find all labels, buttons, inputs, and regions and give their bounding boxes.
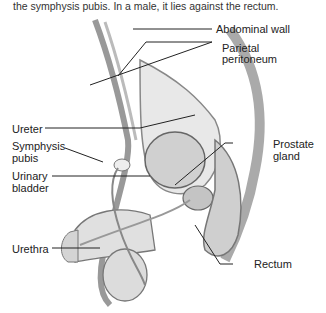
- label-prostate-gland-line2: gland: [273, 150, 300, 162]
- label-urinary-bladder-line1: Urinary: [12, 170, 47, 182]
- label-ureter: Ureter: [12, 123, 43, 135]
- label-rectum: Rectum: [254, 258, 292, 270]
- label-abdominal-wall: Abdominal wall: [216, 23, 290, 35]
- label-urethra: Urethra: [12, 243, 49, 255]
- label-parietal-peritoneum-line2: peritoneum: [222, 53, 277, 65]
- label-urinary-bladder-line2: bladder: [12, 182, 49, 194]
- label-symphysis-pubis-line2: pubis: [12, 152, 38, 164]
- label-prostate-gland-line1: Prostate: [273, 138, 314, 150]
- label-symphysis-pubis-line1: Symphysis: [12, 140, 65, 152]
